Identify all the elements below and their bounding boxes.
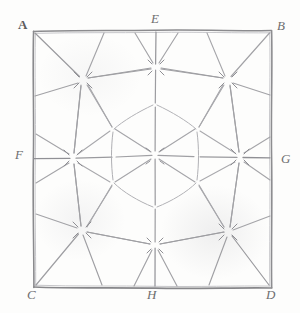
axis-horizontal-left-seg (76, 157, 112, 158)
corner-diagonals (36, 33, 270, 285)
spoke-left-up-left (36, 134, 69, 154)
axis-lines (34, 32, 270, 286)
spoke-bottom-down-left (134, 250, 152, 286)
vertex-label-G: G (281, 152, 291, 165)
frame-edge-left (33, 31, 34, 287)
spoke-lr-up (230, 163, 239, 227)
spoke-bottom-down-right (158, 250, 177, 286)
star-left-spokes (36, 86, 110, 226)
star-upper-left-spokes (35, 33, 151, 153)
spoke-ur-up (207, 33, 225, 76)
vertex-label-E: E (151, 12, 159, 25)
frame-edge-top (34, 30, 272, 31)
diagonal-B-to-upper-right-star (231, 33, 270, 77)
hub-ext-to-lower-left-star (87, 185, 112, 227)
spoke-ur-right (233, 83, 270, 95)
star-lower-left-spokes (36, 164, 150, 285)
spoke-lr-left-to-bottom-star (160, 232, 224, 244)
spoke-lr-right (233, 216, 270, 230)
spoke-ll-left (36, 214, 77, 228)
accent-upper-right (219, 72, 237, 88)
spoke-ll-up (74, 164, 81, 226)
inner-ring-edge-top-right (157, 105, 196, 129)
inner-ring-edge-top-left (114, 105, 153, 129)
spoke-right-up (230, 86, 239, 152)
spoke-right-up-left-inner (200, 131, 235, 153)
geometry-figure: A B C D E F G H (0, 0, 300, 313)
frame-edge-right (271, 31, 272, 288)
accent-lower-left (73, 222, 91, 238)
spoke-top-up-right (159, 33, 178, 63)
hub-spoke-lower-right (159, 159, 195, 182)
hub-spoke-upper-left (115, 129, 151, 152)
hub-ext-to-upper-right-star (199, 85, 224, 127)
vertex-label-C: C (27, 288, 36, 301)
axis-horizontal-inner-right (158, 155, 194, 156)
vertex-label-B: B (277, 19, 285, 32)
inner-ring-edge-right (197, 132, 199, 180)
spoke-top-up-left (135, 33, 153, 63)
spoke-ul-left (35, 83, 78, 96)
hub-spoke-upper-right (159, 129, 195, 152)
spoke-right-down-right (244, 162, 270, 180)
spoke-right-down-left-inner (200, 162, 235, 181)
frame-edge-top-ghost (34, 32, 271, 33)
diagonal-C-to-lower-left-star (36, 234, 79, 285)
figure-canvas (0, 0, 300, 313)
spoke-left-down-right-inner (78, 163, 110, 182)
vertex-label-D: D (266, 288, 276, 301)
inner-ring-edge-bottom-left (114, 183, 153, 207)
spoke-ur-left-to-top-star (161, 68, 223, 78)
axis-horizontal-right-seg (200, 157, 237, 158)
spoke-ul-up (86, 33, 104, 76)
hub-ext-to-lower-right-star (199, 185, 224, 227)
spoke-left-up (74, 86, 81, 153)
square-frame (33, 30, 272, 288)
vertex-label-F: F (15, 148, 23, 161)
accent-upper-left (74, 72, 92, 88)
inner-ring-edge-bottom-right (157, 183, 196, 207)
axis-horizontal-inner-left (116, 155, 152, 157)
spoke-bottom-left (87, 232, 150, 244)
spoke-top-left (88, 69, 151, 78)
hub-ext-to-upper-left-star (87, 85, 112, 127)
hub-spoke-lower-left (115, 159, 151, 182)
diagonal-A-to-upper-left-star (36, 34, 80, 77)
spoke-ll-down (83, 235, 102, 285)
spoke-lr-down (209, 237, 227, 285)
diagonal-D-to-lower-right-star (232, 236, 269, 285)
spoke-left-up-right-inner (78, 131, 110, 154)
vertex-label-A: A (18, 18, 28, 31)
frame-edge-left-ghost (35, 33, 36, 286)
vertex-label-H: H (147, 288, 157, 301)
star-lower-right-spokes (160, 163, 270, 285)
inner-ring-edge-left (112, 132, 114, 180)
center-hub-spokes (87, 85, 224, 227)
